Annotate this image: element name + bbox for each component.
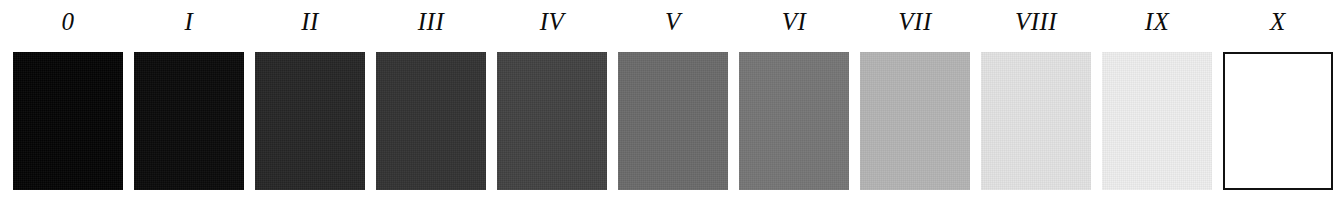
step-wedge-cell: VII: [860, 0, 970, 199]
step-wedge-cell: IX: [1102, 0, 1212, 199]
step-wedge-cell: 0: [13, 0, 123, 199]
step-patch: [860, 52, 970, 190]
step-patch: [1102, 52, 1212, 190]
step-wedge-cell: II: [255, 0, 365, 199]
step-patch: [981, 52, 1091, 190]
step-patch: [739, 52, 849, 190]
step-label: VIII: [1015, 0, 1057, 52]
step-label: VI: [782, 0, 807, 52]
step-patch: [497, 52, 607, 190]
step-label: V: [665, 0, 681, 52]
step-label: X: [1270, 0, 1286, 52]
step-label: VII: [898, 0, 931, 52]
step-patch: [1223, 52, 1333, 190]
step-label: I: [185, 0, 194, 52]
step-label: II: [301, 0, 319, 52]
step-label: III: [418, 0, 444, 52]
step-label: 0: [62, 0, 75, 52]
step-wedge-row: 0IIIIIIIVVVIVIIVIIIIXX: [13, 0, 1288, 199]
step-patch: [255, 52, 365, 190]
step-wedge-cell: IV: [497, 0, 607, 199]
step-patch: [618, 52, 728, 190]
step-label: IV: [540, 0, 565, 52]
step-wedge-cell: V: [618, 0, 728, 199]
step-patch: [376, 52, 486, 190]
step-patch: [134, 52, 244, 190]
step-wedge-cell: I: [134, 0, 244, 199]
step-wedge-cell: X: [1223, 0, 1333, 199]
step-patch: [13, 52, 123, 190]
step-wedge-cell: VI: [739, 0, 849, 199]
step-wedge-cell: III: [376, 0, 486, 199]
step-label: IX: [1145, 0, 1170, 52]
step-wedge-cell: VIII: [981, 0, 1091, 199]
